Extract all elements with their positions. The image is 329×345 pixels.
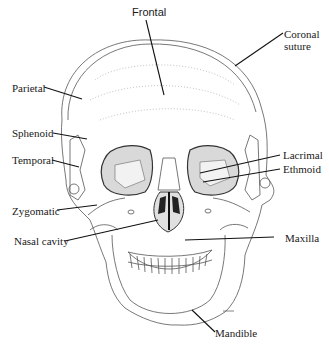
right-mastoid <box>260 178 270 188</box>
coronal-suture-leader <box>235 33 283 66</box>
nasal-bone <box>158 158 180 190</box>
label-coronal-suture-line1: Coronal <box>284 28 319 40</box>
label-parietal: Parietal <box>12 82 46 94</box>
label-nasal-cavity: Nasal cavity <box>14 235 69 247</box>
label-mandible: Mandible <box>215 327 257 339</box>
teeth <box>128 250 212 274</box>
frontal-leader <box>146 20 164 95</box>
left-infraorbital-foramen <box>128 210 134 214</box>
left-mastoid <box>69 184 79 194</box>
mandible-leader <box>192 310 215 332</box>
label-frontal: Frontal <box>132 6 166 18</box>
right-temporal-region <box>245 135 260 200</box>
right-infraorbital-foramen <box>205 209 211 213</box>
maxilla-leader <box>185 237 274 240</box>
label-ethmoid: Ethmoid <box>283 163 321 175</box>
label-sphenoid: Sphenoid <box>12 127 54 139</box>
label-zygomatic: Zygomatic <box>12 205 60 217</box>
label-temporal: Temporal <box>12 154 54 166</box>
left-zygomatic-arch <box>88 198 125 230</box>
label-lacrimal: Lacrimal <box>283 149 323 161</box>
left-temporal-region <box>70 135 85 200</box>
frontal-texture <box>90 65 240 120</box>
temporal-leader <box>52 160 79 167</box>
right-zygomatic-arch <box>213 198 250 230</box>
zygomatic-leader <box>57 205 97 210</box>
label-coronal-suture-line2: suture <box>284 40 311 52</box>
skull-diagram <box>0 0 329 345</box>
sphenoid-leader <box>53 133 87 139</box>
nasal-cavity-leader <box>65 220 158 241</box>
label-maxilla: Maxilla <box>285 232 319 244</box>
mandible-outline <box>112 235 225 314</box>
